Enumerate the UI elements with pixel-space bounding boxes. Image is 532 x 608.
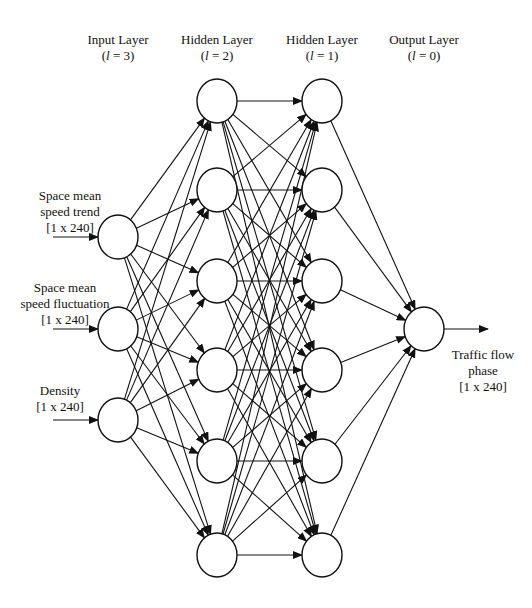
input-label-speed-trend: Space mean speed trend [1 x 240]	[18, 188, 122, 236]
layer-title-hidden1: Hidden Layer (l = 1)	[272, 32, 372, 64]
output-label-line: phase	[438, 363, 528, 379]
output-label-traffic-flow-phase: Traffic flow phase [1 x 240]	[438, 347, 528, 395]
input-label-speed-fluctuation: Space mean speed fluctuation [1 x 240]	[8, 280, 122, 328]
input-dimension: [1 x 240]	[18, 220, 122, 236]
input-label-density: Density [1 x 240]	[10, 383, 110, 415]
connection-edge	[124, 258, 210, 534]
layer-name: Hidden Layer	[272, 32, 372, 48]
connection-edges	[124, 101, 415, 555]
layer-title-input: Input Layer (l = 3)	[68, 32, 168, 64]
input-dimension: [1 x 240]	[10, 399, 110, 415]
connection-edge	[340, 290, 405, 321]
neuron-node-hidden2-1	[197, 79, 237, 123]
neuron-node-output-1	[404, 307, 444, 351]
connection-edge	[331, 349, 415, 536]
layer-index: (l = 2)	[167, 48, 267, 64]
connection-edge	[331, 121, 415, 310]
connection-edge	[136, 199, 198, 229]
neuron-node-hidden2-5	[197, 439, 237, 483]
layer-name: Hidden Layer	[167, 32, 267, 48]
layer-index: (l = 3)	[68, 48, 168, 64]
layer-title-output: Output Layer (l = 0)	[374, 32, 474, 64]
neuron-node-hidden2-4	[197, 348, 237, 392]
connection-edge	[335, 207, 412, 312]
input-dimension: [1 x 240]	[8, 312, 122, 328]
input-label-line: Density	[10, 383, 110, 399]
neuron-node-hidden1-2	[302, 168, 342, 212]
connection-edge	[137, 337, 199, 362]
layer-title-hidden2: Hidden Layer (l = 2)	[167, 32, 267, 64]
connection-edge	[131, 437, 205, 538]
connection-edge	[127, 349, 209, 535]
neuron-node-hidden1-3	[302, 259, 342, 303]
neuron-node-hidden1-1	[302, 79, 342, 123]
layer-index: (l = 0)	[374, 48, 474, 64]
layer-index: (l = 1)	[272, 48, 372, 64]
neuron-node-hidden2-3	[197, 259, 237, 303]
connection-edge	[131, 254, 205, 353]
input-label-line: speed fluctuation	[8, 296, 122, 312]
input-label-line: Space mean	[8, 280, 122, 296]
neuron-node-hidden1-6	[302, 533, 342, 577]
output-label-line: Traffic flow	[438, 347, 528, 363]
neuron-node-hidden2-2	[197, 168, 237, 212]
neuron-node-hidden2-6	[197, 533, 237, 577]
connection-edge	[127, 121, 209, 309]
input-label-line: Space mean	[18, 188, 122, 204]
connection-edge	[137, 428, 199, 453]
layer-name: Output Layer	[374, 32, 474, 48]
connection-edge	[131, 118, 205, 220]
connection-edge	[341, 337, 405, 363]
connection-edge	[124, 122, 210, 399]
neuron-node-hidden1-5	[302, 439, 342, 483]
input-label-line: speed trend	[18, 204, 122, 220]
connection-edge	[136, 379, 199, 411]
neuron-node-hidden1-4	[302, 348, 342, 392]
layer-name: Input Layer	[68, 32, 168, 48]
output-dimension: [1 x 240]	[438, 379, 528, 395]
